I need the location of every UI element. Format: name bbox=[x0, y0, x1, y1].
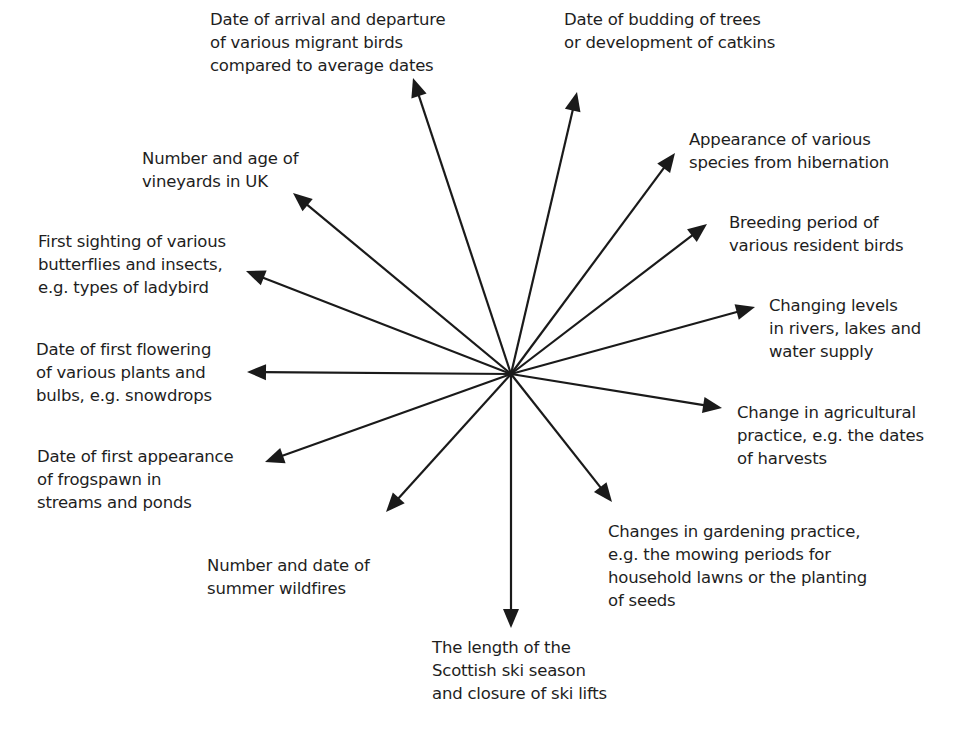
arrowhead-icon-budding-trees bbox=[565, 92, 581, 112]
arrow-line-agriculture bbox=[511, 374, 705, 405]
arrow-line-water-levels bbox=[511, 312, 739, 374]
arrow-line-migrant-birds bbox=[418, 94, 511, 374]
label-hibernation: Appearance of various species from hiber… bbox=[689, 128, 889, 174]
label-ski-season: The length of the Scottish ski season an… bbox=[432, 636, 607, 705]
label-wildfires: Number and date of summer wildfires bbox=[207, 554, 370, 600]
arrow-line-wildfires bbox=[397, 374, 511, 499]
label-budding-trees: Date of budding of trees or development … bbox=[564, 8, 775, 54]
label-frogspawn: Date of first appearance of frogspawn in… bbox=[37, 445, 233, 514]
arrow-line-gardening bbox=[511, 374, 601, 489]
arrowhead-icon-butterflies bbox=[246, 270, 267, 285]
arrowhead-icon-ski-season bbox=[503, 609, 519, 628]
arrowhead-icon-resident-birds bbox=[687, 224, 707, 242]
arrowhead-icon-hibernation bbox=[657, 153, 675, 173]
label-vineyards: Number and age of vineyards in UK bbox=[142, 147, 298, 193]
arrowhead-icon-water-levels bbox=[735, 304, 755, 319]
label-gardening: Changes in gardening practice, e.g. the … bbox=[608, 520, 867, 612]
arrow-line-frogspawn bbox=[281, 374, 511, 456]
arrowhead-icon-agriculture bbox=[702, 397, 722, 413]
label-migrant-birds: Date of arrival and departure of various… bbox=[210, 8, 446, 77]
arrowhead-icon-migrant-birds bbox=[411, 78, 426, 99]
arrow-line-flowering bbox=[264, 372, 511, 374]
label-water-levels: Changing levels in rivers, lakes and wat… bbox=[769, 294, 921, 363]
arrow-line-butterflies bbox=[262, 277, 511, 374]
arrowhead-icon-vineyards bbox=[293, 193, 313, 211]
arrow-line-hibernation bbox=[511, 167, 665, 374]
label-agriculture: Change in agricultural practice, e.g. th… bbox=[737, 401, 924, 470]
arrowhead-icon-gardening bbox=[594, 482, 612, 502]
arrowhead-icon-flowering bbox=[247, 364, 266, 380]
label-flowering: Date of first flowering of various plant… bbox=[36, 338, 212, 407]
arrow-line-vineyards bbox=[306, 204, 511, 374]
label-resident-birds: Breeding period of various resident bird… bbox=[729, 211, 903, 257]
label-butterflies: First sighting of various butterflies an… bbox=[38, 230, 226, 299]
center-hub bbox=[509, 372, 514, 377]
arrowhead-icon-frogspawn bbox=[265, 448, 286, 463]
